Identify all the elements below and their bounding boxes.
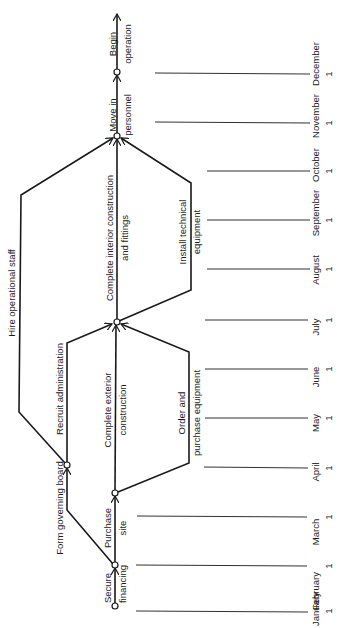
svg-text:1: 1 [323,563,334,568]
month-february: February [310,572,321,610]
node-interior-done [114,133,120,139]
month-september: September [310,190,321,236]
label-order-equipment-1: Order and [176,392,187,435]
month-november: November [310,94,321,138]
label-install-equipment-1: Install technical [177,200,188,265]
svg-text:1: 1 [323,266,334,271]
svg-text:1: 1 [323,415,334,420]
label-begin-operation-1: Begin [107,32,118,56]
month-october: October [310,148,321,182]
svg-text:1: 1 [323,120,334,125]
edge-hire-operational-staff [19,138,113,463]
svg-text:1: 1 [323,168,334,173]
label-exterior-2: construction [117,384,128,435]
label-exterior-1: Complete exterior [102,373,113,448]
node-exterior-done [114,319,120,325]
label-interior-2: and fittings [119,215,130,261]
month-june: June [310,367,321,388]
label-secure-financing-2: financing [117,565,128,603]
edge-exterior-construction [115,325,116,490]
month-may: May [310,414,321,432]
svg-text:1: 1 [323,366,334,371]
node-site-purchased [112,490,118,496]
label-move-personnel-1: Move in [107,98,118,131]
label-hire-operational-staff: Hire operational staff [6,249,17,337]
svg-text:1: 1 [323,514,334,519]
label-recruit-administration: Recruit administration [54,343,65,435]
label-move-personnel-2: personnel [122,94,133,136]
svg-text:1: 1 [323,71,334,76]
pert-diagram: January 1 February 1 March 1 April 1 May… [0,0,341,628]
label-purchase-site-2: site [117,521,128,536]
node-personnel-moved [114,69,120,75]
label-install-equipment-2: equipment [191,209,202,254]
label-begin-operation-2: operation [122,24,133,64]
svg-text:1: 1 [323,608,334,613]
month-july: July [310,318,321,335]
month-april: April [310,462,321,481]
month-gridlines [136,73,310,612]
month-march: March [310,519,321,545]
month-december: December [310,42,321,86]
svg-text:1: 1 [323,217,334,222]
svg-text:1: 1 [323,317,334,322]
label-order-equipment-2: purchase equipment [191,370,202,456]
label-interior-1: Complete interior construction [104,175,115,301]
label-form-governing-board: Form governing board [54,461,65,554]
label-purchase-site-1: Purchase [102,508,113,548]
month-august: August [310,255,321,285]
month-labels: January 1 February 1 March 1 April 1 May… [310,42,334,626]
label-secure-financing-1: Secure [102,573,113,603]
svg-text:1: 1 [323,465,334,470]
